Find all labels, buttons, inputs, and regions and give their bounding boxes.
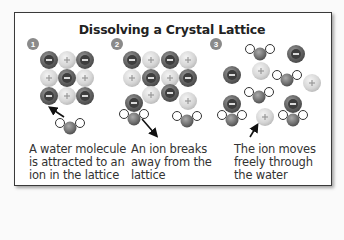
- negative-ion-icon: [179, 69, 197, 87]
- negative-ion-icon: [284, 95, 302, 113]
- negative-ion-icon: [287, 45, 305, 63]
- step-2-caption: An ion breaks away from the lattice: [131, 143, 212, 182]
- positive-ion-icon: [142, 86, 160, 104]
- positive-ion-icon: [76, 69, 94, 87]
- negative-ion-icon: [76, 51, 94, 69]
- negative-ion-icon: [123, 51, 141, 69]
- negative-ion-icon: [161, 51, 179, 69]
- positive-ion-icon: [303, 74, 321, 92]
- step-2-panel: 2: [111, 38, 202, 134]
- water-molecule-icon: [173, 112, 202, 128]
- water-molecule-icon: [273, 71, 302, 87]
- arrow-icon: [250, 127, 256, 137]
- step-3-badge: 3: [210, 38, 222, 50]
- negative-ion-icon: [223, 66, 241, 84]
- positive-ion-icon: [40, 69, 58, 87]
- step-3-panel: 3: [210, 38, 321, 137]
- caption-line: lattice: [131, 169, 212, 182]
- positive-ion-icon: [256, 108, 274, 126]
- step-2-badge: 2: [111, 38, 123, 50]
- water-molecule-icon: [245, 88, 274, 104]
- negative-ion-icon: [142, 69, 160, 87]
- positive-ion-icon: [58, 51, 76, 69]
- step-1-badge: 1: [27, 38, 39, 50]
- positive-ion-icon: [123, 69, 141, 87]
- lattice-grid: [40, 51, 94, 105]
- caption-line: the water: [234, 169, 316, 182]
- negative-ion-icon: [40, 87, 58, 105]
- water-molecule-icon: [246, 45, 275, 61]
- step-1-caption: A water molecule is attracted to an ion …: [29, 143, 126, 182]
- positive-ion-icon: [179, 92, 197, 110]
- negative-ion-icon: [58, 69, 76, 87]
- negative-ion-icon: [40, 51, 58, 69]
- svg-text:2: 2: [115, 40, 120, 49]
- arrow-icon: [52, 109, 64, 117]
- step-3-caption: The ion moves freely through the water: [234, 143, 316, 182]
- positive-ion-icon: [142, 51, 160, 69]
- positive-ion-icon: [179, 51, 197, 69]
- step-1-panel: 1: [27, 38, 94, 135]
- water-molecule-icon: [56, 119, 85, 135]
- arrow-icon: [142, 119, 155, 134]
- positive-ion-icon: [252, 62, 270, 80]
- negative-ion-icon: [161, 84, 179, 102]
- negative-ion-icon: [125, 94, 143, 112]
- positive-ion-icon: [58, 87, 76, 105]
- negative-ion-icon: [76, 87, 94, 105]
- caption-line: ion in the lattice: [29, 169, 126, 182]
- svg-text:3: 3: [214, 40, 219, 49]
- negative-ion-icon: [223, 95, 241, 113]
- svg-text:1: 1: [31, 40, 36, 49]
